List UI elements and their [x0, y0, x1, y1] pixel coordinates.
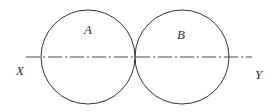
- label-x: X: [15, 63, 25, 78]
- two-circles-diagram: A B X Y: [0, 0, 279, 112]
- label-y: Y: [255, 67, 264, 82]
- label-b: B: [177, 27, 185, 42]
- label-a: A: [83, 22, 92, 37]
